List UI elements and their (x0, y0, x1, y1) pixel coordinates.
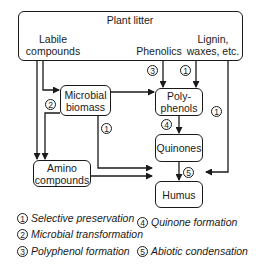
edge-label-polyphenols-quinones: 4 (161, 119, 172, 130)
legend-number-3: 3 (17, 246, 28, 257)
legend-item-4: 4 Quinone formation (137, 216, 237, 228)
plant-litter-title: Plant litter (90, 14, 170, 26)
legend-number-4: 4 (137, 217, 148, 228)
labile-compounds-label: Labile compounds (22, 33, 84, 57)
phenolics-label: Phenolics (128, 45, 190, 57)
edge-label-quinones-humus: 5 (183, 167, 194, 178)
legend-number-2: 2 (17, 229, 28, 240)
edge-label-microbial-humus: 1 (101, 123, 112, 134)
edge-label-lignin-humus: 1 (211, 106, 222, 117)
legend-item-1: 1 Selective preservation (17, 212, 134, 224)
legend-item-5: 5 Abiotic condensation (137, 245, 248, 257)
arrow-labile-to-microbial (43, 61, 59, 90)
legend-number-5: 5 (137, 246, 148, 257)
humus-node: Humus (155, 181, 203, 208)
edge-label-lignin-polyphenols: 1 (180, 65, 191, 76)
polyphenols-node: Poly- phenols (155, 88, 203, 116)
arrow-microbial-to-amino (45, 113, 60, 159)
amino-compounds-node: Amino compounds (33, 160, 91, 187)
legend-number-1: 1 (17, 213, 28, 224)
lignin-waxes-label: Lignin, waxes, etc. (184, 33, 242, 57)
edge-label-phenolics: 3 (147, 65, 158, 76)
microbial-biomass-node: Microbial biomass (60, 85, 111, 116)
quinones-node: Quinones (155, 134, 203, 162)
legend-item-3: 3 Polyphenol formation (17, 245, 130, 257)
edge-label-labile-microbial: 2 (45, 99, 56, 110)
legend-item-2: 2 Microbial transformation (17, 228, 143, 240)
